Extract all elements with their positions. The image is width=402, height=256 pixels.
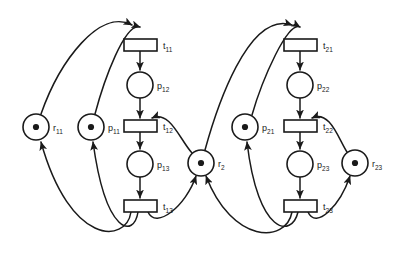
transition-t12[interactable]: t12 (124, 120, 173, 134)
place-label-p23: p23 (317, 160, 330, 172)
transition-label-t21: t21 (323, 41, 333, 53)
transition-bar-t12 (124, 120, 157, 132)
token-dot-r11 (33, 124, 39, 130)
arc-r2-to-t12 (152, 117, 192, 153)
token-dot-p11 (88, 124, 94, 130)
arc-r11-to-t11 (41, 22, 132, 114)
places-layer: r11p11p12p13r2p21p22p23r23 (23, 72, 383, 177)
place-label-p13: p13 (157, 160, 170, 172)
transition-bar-t11 (124, 39, 157, 51)
transition-bar-t13 (124, 200, 157, 212)
place-label-p11: p11 (108, 123, 120, 135)
place-circle-p13 (127, 151, 153, 177)
place-p23[interactable]: p23 (287, 151, 330, 177)
token-dot-r23 (352, 160, 358, 166)
transition-bar-t21 (284, 39, 317, 51)
transition-t23[interactable]: t23 (284, 200, 333, 214)
place-circle-p12 (127, 72, 153, 98)
token-dot-p21 (242, 124, 248, 130)
petri-net-canvas: t11t12t13t21t22t23 r11p11p12p13r2p21p22p… (0, 0, 402, 256)
transition-label-t23: t23 (323, 202, 333, 214)
place-p13[interactable]: p13 (127, 151, 170, 177)
place-circle-p23 (287, 151, 313, 177)
place-label-p22: p22 (317, 81, 330, 93)
transition-t13[interactable]: t13 (124, 200, 173, 214)
transition-label-t11: t11 (163, 41, 173, 53)
place-p11[interactable]: p11 (78, 114, 120, 140)
transition-bar-t22 (284, 120, 317, 132)
place-circle-p22 (287, 72, 313, 98)
place-r23[interactable]: r23 (342, 150, 383, 176)
place-r2[interactable]: r2 (188, 150, 225, 176)
place-label-r2: r2 (218, 159, 225, 171)
token-dot-r2 (198, 160, 204, 166)
place-p22[interactable]: p22 (287, 72, 330, 98)
place-p21[interactable]: p21 (232, 114, 275, 140)
place-p12[interactable]: p12 (127, 72, 170, 98)
transition-t21[interactable]: t21 (284, 39, 333, 53)
transition-label-t22: t22 (323, 122, 333, 134)
arc-t23-to-r2 (206, 176, 292, 233)
place-label-r23: r23 (372, 159, 383, 171)
transition-bar-t23 (284, 200, 317, 212)
place-label-r11: r11 (53, 123, 63, 135)
transition-t11[interactable]: t11 (124, 39, 173, 53)
place-label-p21: p21 (262, 123, 275, 135)
transition-t22[interactable]: t22 (284, 120, 333, 134)
place-r11[interactable]: r11 (23, 114, 63, 140)
place-label-p12: p12 (157, 81, 170, 93)
arc-t13-to-r11 (41, 142, 131, 231)
transition-label-t13: t13 (163, 202, 173, 214)
petri-net-diagram: t11t12t13t21t22t23 r11p11p12p13r2p21p22p… (0, 0, 402, 256)
transitions-layer: t11t12t13t21t22t23 (124, 39, 333, 214)
